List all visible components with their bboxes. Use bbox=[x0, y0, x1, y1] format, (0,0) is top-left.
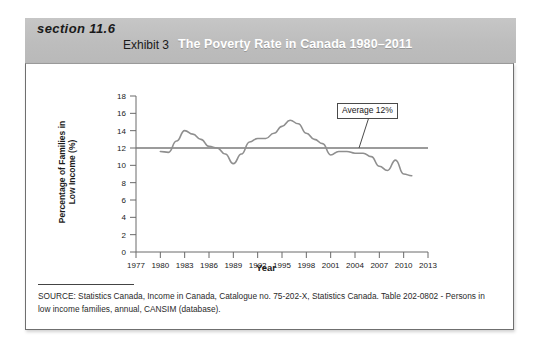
section-number: section 11.6 bbox=[37, 21, 177, 37]
chart-container: Percentage of Families in Low Income (%)… bbox=[26, 64, 515, 282]
source-divider bbox=[38, 284, 134, 285]
exhibit-number: Exhibit 3 bbox=[37, 37, 177, 53]
svg-text:6: 6 bbox=[122, 196, 127, 205]
svg-text:8: 8 bbox=[122, 179, 127, 188]
svg-text:1980: 1980 bbox=[151, 261, 169, 270]
svg-text:18: 18 bbox=[117, 92, 126, 101]
svg-text:1998: 1998 bbox=[297, 261, 315, 270]
poverty-rate-line-chart: 024681012141618 197719801983198619891992… bbox=[26, 64, 515, 282]
svg-text:1986: 1986 bbox=[200, 261, 218, 270]
svg-text:1983: 1983 bbox=[176, 261, 194, 270]
svg-text:2001: 2001 bbox=[322, 261, 340, 270]
exhibit-title: The Poverty Rate in Canada 1980–2011 bbox=[178, 37, 412, 51]
svg-text:0: 0 bbox=[122, 248, 127, 257]
svg-text:2010: 2010 bbox=[395, 261, 413, 270]
svg-text:10: 10 bbox=[117, 161, 126, 170]
svg-text:14: 14 bbox=[117, 127, 126, 136]
svg-text:1992: 1992 bbox=[249, 261, 267, 270]
x-axis-ticks: 1977198019831986198919921995199820012004… bbox=[127, 252, 437, 270]
svg-text:2007: 2007 bbox=[370, 261, 388, 270]
svg-text:2: 2 bbox=[122, 231, 127, 240]
exhibit-page: section 11.6 Exhibit 3 The Poverty Rate … bbox=[0, 0, 544, 358]
exhibit-body: Percentage of Families in Low Income (%)… bbox=[25, 63, 514, 330]
exhibit-header-band: section 11.6 Exhibit 3 The Poverty Rate … bbox=[25, 18, 516, 63]
svg-text:12: 12 bbox=[117, 144, 126, 153]
svg-text:2013: 2013 bbox=[419, 261, 437, 270]
svg-text:1977: 1977 bbox=[127, 261, 145, 270]
callout-leader-line bbox=[359, 117, 369, 148]
svg-text:2004: 2004 bbox=[346, 261, 364, 270]
svg-text:1989: 1989 bbox=[224, 261, 242, 270]
svg-text:16: 16 bbox=[117, 109, 126, 118]
exhibit-header-left: section 11.6 Exhibit 3 bbox=[37, 21, 177, 53]
average-callout: Average 12% bbox=[337, 103, 398, 119]
svg-text:4: 4 bbox=[122, 213, 127, 222]
source-note: SOURCE: Statistics Canada, Income in Can… bbox=[38, 290, 490, 315]
y-axis-ticks: 024681012141618 bbox=[117, 92, 136, 257]
svg-text:1995: 1995 bbox=[273, 261, 291, 270]
